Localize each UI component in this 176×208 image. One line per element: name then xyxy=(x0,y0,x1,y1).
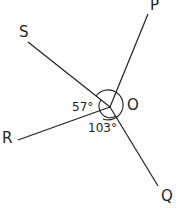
angle-arc-sor xyxy=(99,100,101,111)
reflex-angle-arc xyxy=(96,90,123,120)
angle-label-sor: 57° xyxy=(72,101,93,113)
label-p: P xyxy=(150,0,159,13)
label-r: R xyxy=(2,131,12,146)
ray-oq xyxy=(110,107,158,186)
label-q: Q xyxy=(161,189,173,204)
label-o: O xyxy=(127,98,139,113)
ray-op xyxy=(110,14,148,107)
label-s: S xyxy=(19,25,29,40)
angle-label-roq: 103° xyxy=(88,122,117,134)
ray-os xyxy=(28,42,110,107)
